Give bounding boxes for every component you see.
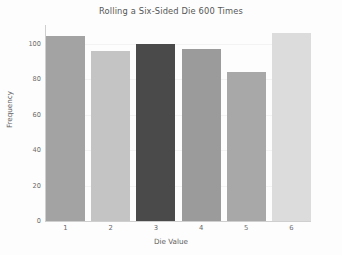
chart-title: Rolling a Six-Sided Die 600 Times (0, 6, 342, 16)
bar-5[interactable] (227, 72, 266, 221)
x-axis-line (45, 221, 311, 222)
x-axis-tick-labels: 123456 (46, 224, 311, 232)
chart-figure: Rolling a Six-Sided Die 600 Times 020406… (0, 0, 342, 255)
x-axis-title: Die Value (0, 237, 342, 246)
x-tick-label: 4 (182, 224, 221, 232)
x-tick-label: 6 (272, 224, 311, 232)
bar-1[interactable] (46, 36, 85, 221)
x-tick-label: 1 (46, 224, 85, 232)
x-tick-label: 2 (91, 224, 130, 232)
bar-3[interactable] (136, 44, 175, 222)
x-tick-label: 5 (227, 224, 266, 232)
y-tick-label: 0 (1, 217, 41, 225)
y-tick-label: 100 (1, 40, 41, 48)
bar-4[interactable] (182, 49, 221, 221)
y-axis-title: Frequency (5, 60, 14, 160)
plot-area (46, 25, 311, 221)
bar-2[interactable] (91, 51, 130, 221)
bar-6[interactable] (272, 33, 311, 221)
bar-series (46, 25, 311, 221)
x-tick-label: 3 (136, 224, 175, 232)
y-tick-label: 20 (1, 182, 41, 190)
